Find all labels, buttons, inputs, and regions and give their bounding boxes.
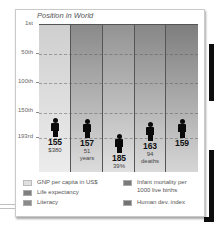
rank-value: 157 (71, 139, 103, 148)
rank-detail: 39% (103, 163, 135, 170)
background-rule (0, 204, 16, 205)
background-black-bar (209, 44, 214, 101)
legend-item-literacy: Literacy (23, 199, 58, 207)
person-icon (82, 119, 92, 138)
person-icon (114, 134, 124, 153)
gridline-50th (39, 54, 198, 55)
background-rule (0, 208, 16, 209)
gridline-100th (39, 83, 198, 84)
y-tick-label: 150th (9, 107, 33, 113)
legend-swatch (123, 180, 132, 186)
person-icon (50, 118, 60, 137)
legend-swatch (23, 190, 32, 196)
background-black-bar (204, 217, 214, 222)
plot-area: 155 $380 157 51 years 185 39% 163 94 dea… (39, 24, 198, 172)
legend-swatch (23, 180, 32, 186)
gridline-150th (39, 113, 198, 114)
rank-detail: years (71, 155, 103, 162)
rank-value: 159 (166, 139, 198, 148)
y-tick-label: 50th (9, 49, 33, 55)
y-tick-label: 100th (9, 78, 33, 84)
rank-detail: $380 (39, 147, 71, 154)
y-tick-label: 193rd (9, 133, 33, 139)
rank-value: 163 (134, 142, 166, 151)
legend-swatch (123, 200, 132, 206)
legend-swatch (23, 200, 32, 206)
legend-item-gnp: GNP per capita in US$ (23, 179, 98, 187)
chart-title: Position in World (37, 11, 93, 20)
rank-detail: deaths (134, 158, 166, 165)
legend-item-human-dev-index: Human dev. index (123, 199, 185, 207)
rank-value: 185 (103, 154, 135, 163)
legend-item-life-expectancy: Life expectancy (23, 189, 79, 197)
column-human-dev-index (166, 25, 198, 172)
person-icon (177, 119, 187, 138)
rank-detail: 51 (71, 148, 103, 155)
rank-value: 155 (39, 138, 71, 147)
rank-detail: 94 (134, 151, 166, 158)
background-black-bar (209, 150, 214, 222)
legend-item-infant-mortality: Infant mortality per 1000 live births (123, 179, 187, 194)
person-icon (145, 122, 155, 141)
y-tick-label: 1st (9, 20, 33, 26)
